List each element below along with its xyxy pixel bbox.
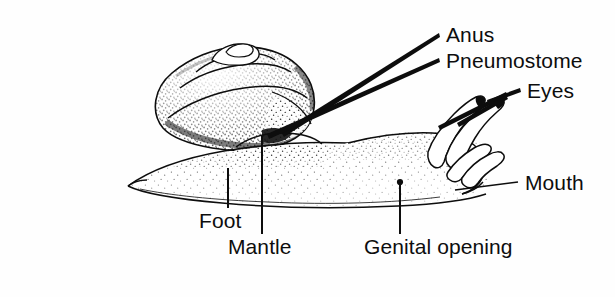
label-foot: Foot <box>199 209 241 232</box>
label-mouth: Mouth <box>525 171 584 194</box>
label-pneumostome: Pneumostome <box>446 49 583 72</box>
label-anus: Anus <box>446 23 494 46</box>
snail-anatomy-diagram: Anus Pneumostome Eyes Mouth Foot Mantle … <box>0 0 615 297</box>
figure-canvas: Anus Pneumostome Eyes Mouth Foot Mantle … <box>0 0 615 297</box>
label-genital-opening: Genital opening <box>364 235 513 258</box>
label-eyes: Eyes <box>527 79 574 102</box>
label-mantle: Mantle <box>228 235 292 258</box>
